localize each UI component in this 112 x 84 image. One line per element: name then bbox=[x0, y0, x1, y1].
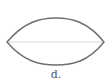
figure-label: d. bbox=[0, 68, 112, 81]
